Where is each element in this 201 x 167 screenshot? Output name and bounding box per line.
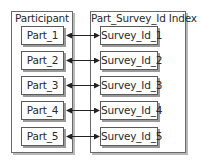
connection-arrows <box>0 0 201 167</box>
